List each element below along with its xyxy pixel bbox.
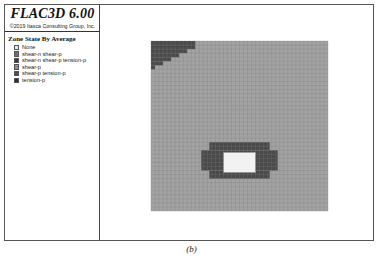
legend-item-shear-p-tension-p: shear-p tension-p [14, 70, 86, 77]
figure-frame: FLAC3D 6.00 ©2019 Itasca Consulting Grou… [4, 4, 374, 241]
legend-item-shear-n-shear-p-tension-p: shear-n shear-p tension-p [14, 57, 86, 64]
legend-label: shear-p [22, 64, 41, 71]
legend-divider [5, 31, 99, 32]
copyright-text: ©2019 Itasca Consulting Group, Inc. [6, 23, 99, 29]
legend-label: shear-n shear-p [22, 51, 62, 58]
legend-panel: FLAC3D 6.00 ©2019 Itasca Consulting Grou… [5, 5, 100, 240]
legend-list: None shear-n shear-p shear-n shear-p ten… [14, 44, 86, 84]
yield-zone-top-left [151, 41, 195, 45]
legend-swatch [14, 58, 19, 64]
legend-label: tension-p [22, 77, 45, 84]
legend-item-tension-p: tension-p [14, 77, 86, 84]
yield-zone-top-left [151, 45, 195, 49]
legend-swatch [14, 51, 19, 57]
legend-title: Zone State By Average [8, 35, 76, 43]
yield-zone-top-left [151, 49, 187, 53]
yield-zone-top-left [151, 65, 155, 69]
legend-swatch [14, 71, 19, 77]
zone-state-model [100, 5, 373, 240]
excavation-opening-fill [223, 152, 255, 172]
figure-caption: (b) [0, 244, 383, 254]
legend-label: shear-p tension-p [22, 70, 66, 77]
app-title: FLAC3D 6.00 [5, 6, 100, 22]
model-plot-area [100, 5, 373, 240]
legend-label: shear-n shear-p tension-p [22, 57, 86, 64]
legend-swatch [14, 64, 19, 70]
legend-swatch [14, 78, 19, 84]
legend-item-shear-p: shear-p [14, 64, 86, 71]
legend-label: None [22, 44, 35, 51]
yield-zone-top-left [151, 53, 179, 57]
yield-zone-top-left [151, 57, 171, 61]
yield-zone-top-left [151, 61, 163, 65]
legend-item-shear-n-shear-p: shear-n shear-p [14, 51, 86, 58]
legend-swatch [14, 45, 19, 51]
legend-item-none: None [14, 44, 86, 51]
